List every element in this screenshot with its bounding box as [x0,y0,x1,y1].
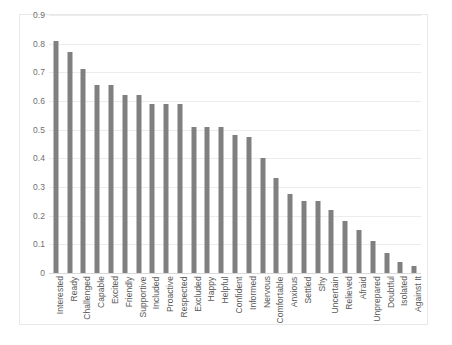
bar[interactable] [177,104,182,273]
x-axis-tick: Settled [297,274,311,336]
x-axis-tick: Informed [242,274,256,336]
y-axis-tick-label: 0.2 [33,211,45,220]
bar[interactable] [412,266,417,273]
x-axis-tick: Against It [407,274,421,336]
x-axis-tick: Nervous [256,274,270,336]
bar-slot [283,15,297,273]
bar[interactable] [246,137,251,273]
bar[interactable] [150,104,155,273]
bar[interactable] [219,127,224,273]
x-axis-tick: Interested [49,274,63,336]
x-axis-tick-label: Against It [414,276,423,312]
bar-slot [352,15,366,273]
bar-slot [187,15,201,273]
bar[interactable] [370,241,375,273]
bar-chart: 0.90.80.70.60.50.40.30.20.10 InterestedR… [19,14,428,325]
bar[interactable] [232,135,237,273]
x-axis-tick: Confident [228,274,242,336]
y-axis: 0.90.80.70.60.50.40.30.20.10 [20,15,49,273]
bar-slot [366,15,380,273]
bar-slot [63,15,77,273]
y-axis-tick-label: 0.4 [33,154,45,163]
bar[interactable] [191,127,196,273]
bar-slot [338,15,352,273]
y-axis-tick-label: 0.6 [33,97,45,106]
y-axis-tick-label: 0.9 [33,11,45,20]
bar[interactable] [274,178,279,273]
x-axis-tick: Relieved [338,274,352,336]
bar-slot [242,15,256,273]
y-axis-tick-label: 0.7 [33,68,45,77]
x-axis-tick: Excited [104,274,118,336]
bar[interactable] [205,127,210,273]
x-axis-tick: Capable [90,274,104,336]
x-axis-tick: Anxious [283,274,297,336]
bars-container [49,15,421,273]
x-axis-tick: Challenged [77,274,91,336]
bar[interactable] [122,95,127,273]
bar[interactable] [343,221,348,273]
bar[interactable] [108,85,113,273]
x-axis-tick: Helpful [214,274,228,336]
bar-slot [77,15,91,273]
bar-slot [214,15,228,273]
bar[interactable] [136,95,141,273]
x-axis-tick: Respected [173,274,187,336]
x-axis-tick: Comfortable [269,274,283,336]
bar[interactable] [356,230,361,273]
x-axis: InterestedReadyChallengedCapableExcitedF… [49,274,421,336]
x-axis-tick: Unprepared [366,274,380,336]
bar-slot [228,15,242,273]
x-axis-tick: Happy [201,274,215,336]
x-axis-tick: Ready [63,274,77,336]
bar-slot [311,15,325,273]
bar[interactable] [67,52,72,273]
y-axis-tick-label: 0.5 [33,125,45,134]
x-axis-tick: Included [145,274,159,336]
bar[interactable] [53,41,58,273]
bar[interactable] [95,85,100,273]
bar-slot [145,15,159,273]
y-axis-tick-label: 0.8 [33,39,45,48]
bar[interactable] [81,69,86,273]
bar-slot [269,15,283,273]
x-axis-tick: Supportive [132,274,146,336]
bar[interactable] [384,253,389,273]
x-axis-tick: Excluded [187,274,201,336]
y-axis-tick-label: 0 [40,269,45,278]
x-axis-tick: Doubtful [380,274,394,336]
bar-slot [201,15,215,273]
bar-slot [297,15,311,273]
x-axis-tick: Afraid [352,274,366,336]
bar[interactable] [288,194,293,273]
bar[interactable] [329,210,334,273]
bar[interactable] [398,262,403,273]
bar-slot [256,15,270,273]
y-axis-tick-label: 0.3 [33,183,45,192]
bar-slot [407,15,421,273]
bar-slot [325,15,339,273]
y-axis-tick-label: 0.1 [33,240,45,249]
bar-slot [49,15,63,273]
bar-slot [132,15,146,273]
bar-slot [159,15,173,273]
bar-slot [90,15,104,273]
x-axis-tick: Isolated [393,274,407,336]
x-axis-tick: Proactive [159,274,173,336]
bar-slot [393,15,407,273]
plot-area: 0.90.80.70.60.50.40.30.20.10 InterestedR… [20,15,427,324]
bar-slot [118,15,132,273]
bar[interactable] [164,104,169,273]
bar[interactable] [301,201,306,273]
bar-slot [380,15,394,273]
bar-slot [173,15,187,273]
bar[interactable] [315,201,320,273]
bar[interactable] [260,158,265,273]
x-axis-tick: Uncertain [325,274,339,336]
x-axis-tick: Friendly [118,274,132,336]
x-axis-tick: Shy [311,274,325,336]
bar-slot [104,15,118,273]
